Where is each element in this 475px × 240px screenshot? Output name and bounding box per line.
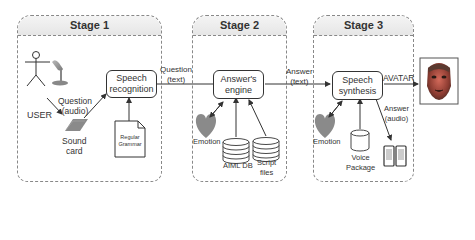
answer-audio-label: Answer (audio) (384, 104, 409, 123)
speakers-icon (384, 146, 406, 166)
script-files-label: Script files (257, 158, 276, 177)
sound-card-label: Sound card (62, 137, 87, 156)
regular-grammar-label: Regular Grammar (117, 134, 143, 148)
user-label: USER (27, 111, 52, 121)
microphone-icon (52, 60, 68, 85)
avatar-label: AVATAR (383, 74, 415, 84)
question-text-label: Question (text) (160, 65, 192, 84)
sound-card-icon (65, 119, 88, 131)
avatar-image (420, 58, 458, 104)
answers-engine-box: Answer's engine (213, 70, 264, 99)
answer-text-label: Answer (text) (286, 67, 313, 86)
question-audio-label: Question (audio) (58, 97, 92, 116)
script-to-engine-arrow (249, 100, 266, 136)
speech-synthesis-box: Speech synthesis (332, 71, 383, 100)
voice-package-cylinder-icon (351, 130, 369, 151)
aiml-db-label: AIML DB (223, 161, 253, 171)
emotion-heart-icon-stage2 (196, 114, 216, 138)
aiml-db-cylinder-icon (223, 139, 249, 164)
emotion-label-stage2: Emotion (193, 137, 221, 147)
emotion-label-stage3: Emotion (313, 137, 341, 147)
speech-recognition-box: Speech recognition (106, 70, 157, 98)
user-stick-figure-icon (25, 52, 50, 87)
voice-package-label: Voice Package (346, 153, 375, 172)
emotion-heart-icon-stage3 (315, 114, 335, 138)
